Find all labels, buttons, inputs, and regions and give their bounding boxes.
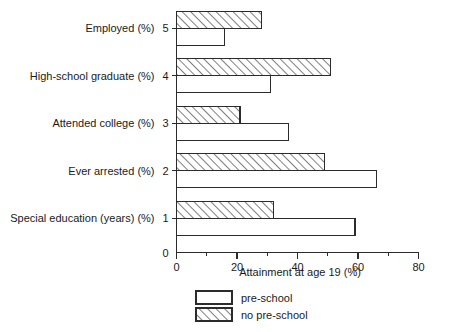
bar-pre-school xyxy=(177,171,377,188)
x-axis-title: Attainment at age 19 (%) xyxy=(239,266,361,278)
bar-no-pre-school xyxy=(177,201,274,218)
bar-pre-school xyxy=(177,123,289,140)
y-tick-label: 5 xyxy=(162,22,168,34)
y-tick-label: 1 xyxy=(162,212,168,224)
bar-no-pre-school xyxy=(177,59,331,76)
category-label: Special education (years) (%) xyxy=(10,212,154,224)
legend-label: pre-school xyxy=(241,292,292,304)
legend-swatch-hatched xyxy=(196,308,232,321)
category-label: Attended college (%) xyxy=(52,117,154,129)
category-label: High-school graduate (%) xyxy=(30,70,155,82)
y-tick-label: 2 xyxy=(162,165,168,177)
bars-layer xyxy=(177,11,377,235)
legend-label: no pre-school xyxy=(241,309,308,321)
y-zero-label: 0 xyxy=(162,247,168,259)
bar-pre-school xyxy=(177,218,355,235)
x-tick-label: 0 xyxy=(173,261,179,273)
chart-canvas: 123450 020406080 Special education (year… xyxy=(0,0,462,332)
bar-no-pre-school xyxy=(177,154,325,171)
bar-no-pre-school xyxy=(177,11,262,28)
bar-chart: 123450 020406080 Special education (year… xyxy=(0,0,462,332)
bar-pre-school xyxy=(177,28,225,45)
y-tick-label: 4 xyxy=(162,70,168,82)
bar-pre-school xyxy=(177,76,271,93)
legend: pre-schoolno pre-school xyxy=(196,291,308,321)
category-labels: Special education (years) (%)Ever arrest… xyxy=(10,22,154,224)
bar-no-pre-school xyxy=(177,106,241,123)
category-label: Ever arrested (%) xyxy=(68,165,154,177)
legend-swatch-plain xyxy=(196,291,232,304)
category-label: Employed (%) xyxy=(85,22,154,34)
y-axis: 123450 xyxy=(162,15,176,259)
y-tick-label: 3 xyxy=(162,117,168,129)
x-tick-label: 80 xyxy=(412,261,424,273)
